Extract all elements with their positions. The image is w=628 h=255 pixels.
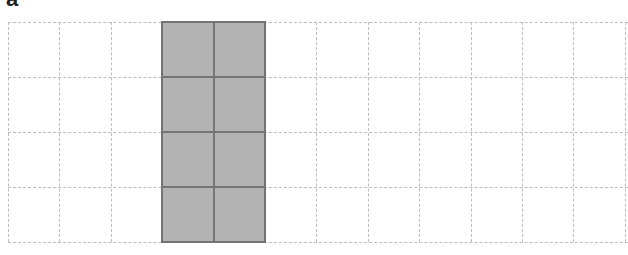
grid-column-line: [471, 22, 472, 242]
grid-column-line: [368, 22, 369, 242]
grid-row-line: [8, 132, 628, 133]
grid-row-line: [8, 22, 628, 23]
shaded-divider-horizontal: [162, 76, 265, 78]
grid-column-line: [8, 22, 9, 242]
grid-row-line: [8, 77, 628, 78]
grid: [8, 22, 628, 242]
shaded-divider-horizontal: [162, 131, 265, 133]
grid-column-line: [625, 22, 626, 242]
grid-row-line: [8, 187, 628, 188]
grid-column-line: [573, 22, 574, 242]
grid-column-line: [316, 22, 317, 242]
panel-label: a: [6, 0, 18, 12]
grid-column-line: [419, 22, 420, 242]
grid-column-line: [522, 22, 523, 242]
grid-row-line: [8, 242, 628, 243]
shaded-divider-horizontal: [162, 186, 265, 188]
grid-column-line: [59, 22, 60, 242]
grid-column-line: [111, 22, 112, 242]
